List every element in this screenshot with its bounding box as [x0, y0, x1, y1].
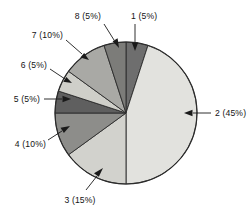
slice-label-1: 1 (5%): [131, 11, 157, 21]
leader-line-slice-7: [66, 40, 82, 54]
slice-label-4: 4 (10%): [15, 139, 46, 149]
leader-line-slice-6: [50, 69, 65, 79]
slice-label-8: 8 (5%): [75, 11, 101, 21]
leader-line-slice-3: [86, 176, 97, 190]
slice-label-6: 6 (5%): [21, 60, 47, 70]
pie-slices-group: [55, 42, 197, 184]
slice-label-5: 5 (5%): [14, 94, 40, 104]
pie-chart-canvas: 1 (5%) 2 (45%) 3 (15%) 4 (10%) 5 (5%) 6 …: [0, 0, 252, 217]
leader-line-slice-8: [104, 24, 114, 40]
slice-label-2: 2 (45%): [215, 108, 246, 118]
pie-chart-figure: 1 (5%) 2 (45%) 3 (15%) 4 (10%) 5 (5%) 6 …: [0, 0, 252, 217]
slice-label-7: 7 (10%): [32, 30, 63, 40]
slice-label-3: 3 (15%): [64, 195, 95, 205]
